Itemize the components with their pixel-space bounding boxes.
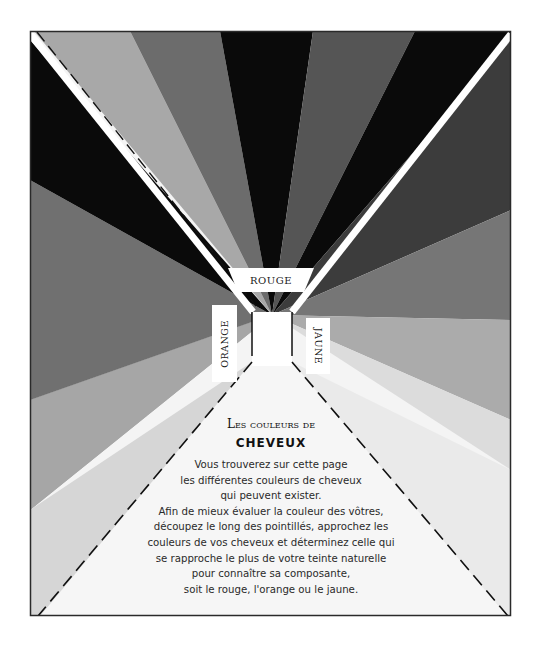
description-line: qui peuvent exister. xyxy=(140,488,402,504)
description-line: couleurs de vos cheveux et déterminez ce… xyxy=(140,535,402,551)
label-jaune: JAUNE xyxy=(313,328,324,364)
description-block: Les couleurs de cheveux Vous trouverez s… xyxy=(140,417,402,597)
label-rouge: ROUGE xyxy=(228,268,314,292)
description-line: découpez le long des pointillés, approch… xyxy=(140,519,402,535)
description-line: Vous trouverez sur cette page xyxy=(140,457,402,473)
description-line: Afin de mieux évaluer la couleur des vôt… xyxy=(140,504,402,520)
description-line: pour connaître sa composante, xyxy=(140,566,402,582)
description-line: soit le rouge, l'orange ou le jaune. xyxy=(140,582,402,598)
description-line: les différentes couleurs de cheveux xyxy=(140,473,402,489)
description-line: se rapproche le plus de votre teinte nat… xyxy=(140,551,402,567)
description-text: Vous trouverez sur cette page les différ… xyxy=(140,457,402,597)
title-prefix: Les couleurs de xyxy=(140,417,402,431)
label-orange: ORANGE xyxy=(219,320,230,368)
title-main: cheveux xyxy=(140,431,402,451)
center-box xyxy=(252,312,292,366)
